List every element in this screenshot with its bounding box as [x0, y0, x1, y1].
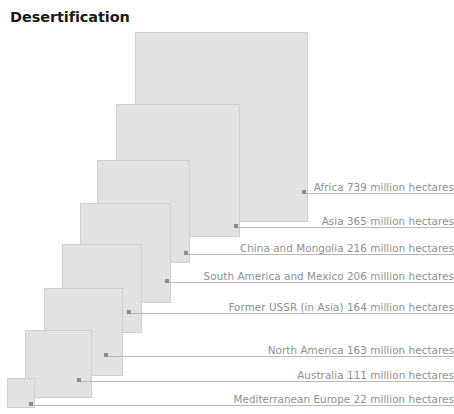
leader-dot-south-america-and-mexico	[165, 279, 169, 283]
label-mediterranean-europe: Mediterranean Europe 22 million hectares	[233, 393, 454, 405]
leader-line-asia	[238, 227, 454, 228]
label-north-america: North America 163 million hectares	[268, 344, 454, 356]
leader-dot-north-america	[104, 353, 108, 357]
leader-line-south-america-and-mexico	[169, 282, 454, 283]
label-asia: Asia 365 million hectares	[322, 215, 454, 227]
leader-dot-australia	[77, 378, 81, 382]
leader-dot-africa	[302, 190, 306, 194]
leader-dot-former-ussr-in-asia	[127, 310, 131, 314]
label-australia: Australia 111 million hectares	[297, 369, 454, 381]
leader-line-australia	[81, 381, 454, 382]
leader-dot-asia	[234, 224, 238, 228]
desertification-infographic: Desertification Africa 739 million hecta…	[0, 0, 454, 414]
leader-dot-china-and-mongolia	[184, 251, 188, 255]
square-australia	[25, 330, 92, 398]
leader-dot-mediterranean-europe	[29, 402, 33, 406]
label-africa: Africa 739 million hectares	[314, 181, 454, 193]
label-south-america-and-mexico: South America and Mexico 206 million hec…	[204, 270, 454, 282]
label-former-ussr-in-asia: Former USSR (in Asia) 164 million hectar…	[228, 301, 454, 313]
leader-line-africa	[306, 193, 454, 194]
leader-line-former-ussr-in-asia	[131, 313, 454, 314]
page-title: Desertification	[10, 9, 130, 25]
label-china-and-mongolia: China and Mongolia 216 million hectares	[240, 242, 454, 254]
leader-line-china-and-mongolia	[188, 254, 454, 255]
leader-line-mediterranean-europe	[33, 405, 454, 406]
leader-line-north-america	[108, 356, 454, 357]
